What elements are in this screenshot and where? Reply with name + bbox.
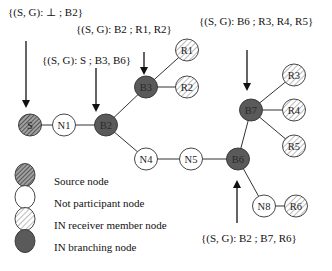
node-label: R1: [181, 45, 193, 56]
annotation-b2: {(S, G): S ; B3, B6}: [42, 54, 131, 67]
node-r3: R3: [283, 64, 306, 86]
node-n1: N1: [53, 114, 76, 136]
legend-branching-label: IN branching node: [54, 241, 137, 253]
node-b7: B7: [240, 99, 263, 121]
node-b6: B6: [227, 148, 250, 170]
node-r4: R4: [283, 99, 306, 121]
annotation-b3: {(S, G): B2 ; R1, R2}: [76, 23, 172, 36]
node-s: S: [19, 114, 42, 136]
legend-branching-icon: [15, 230, 35, 253]
node-label: B3: [140, 82, 152, 93]
annotation-b7: {(S, G): B6 ; R3, R4, R5}: [199, 15, 313, 28]
legend-not-participant-icon: [15, 186, 35, 209]
node-r5: R5: [283, 135, 306, 157]
node-label: B6: [232, 154, 244, 165]
node-label: R2: [181, 82, 193, 93]
legend-source-icon: [15, 164, 35, 187]
legend: Source node Not participant node IN rece…: [15, 164, 167, 254]
multicast-tree-diagram: SN1B2B3R1R2N4N5B6B7R3R4R5N8R6 {(S, G): ⊥…: [0, 0, 332, 271]
node-label: R3: [288, 70, 300, 81]
node-label: S: [27, 120, 33, 131]
node-label: R5: [288, 141, 300, 152]
node-b2: B2: [95, 114, 118, 136]
node-r6: R6: [285, 195, 308, 217]
node-label: B7: [245, 105, 257, 116]
node-n8: N8: [253, 195, 276, 217]
node-n4: N4: [135, 148, 158, 170]
annotation-s: {(S, G): ⊥ ; B2}: [8, 6, 83, 19]
node-label: R4: [288, 105, 301, 116]
node-b3: B3: [135, 76, 158, 98]
node-label: R6: [290, 201, 302, 212]
legend-not-participant-label: Not participant node: [54, 197, 145, 209]
node-n5: N5: [180, 148, 203, 170]
legend-source-label: Source node: [54, 175, 109, 187]
node-label: N1: [58, 120, 71, 131]
node-label: B2: [100, 120, 112, 131]
annotation-b6: {(S, G): B2 ; B7, R6}: [201, 232, 297, 245]
legend-receiver-label: IN receiver member node: [54, 219, 167, 231]
node-label: N8: [258, 201, 271, 212]
node-label: N5: [185, 154, 198, 165]
legend-receiver-icon: [15, 208, 35, 231]
node-label: N4: [140, 154, 154, 165]
node-r1: R1: [176, 39, 199, 61]
node-r2: R2: [176, 76, 199, 98]
